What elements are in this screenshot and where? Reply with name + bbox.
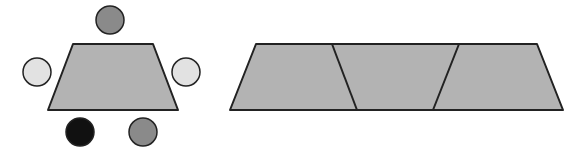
seat-right-circle bbox=[172, 58, 200, 86]
trapezoid-table bbox=[48, 44, 178, 110]
diagram-canvas bbox=[0, 0, 588, 152]
joined-trapezoids-outline bbox=[230, 44, 563, 110]
seat-bottom-left-circle bbox=[66, 118, 94, 146]
seat-bottom-right-circle bbox=[129, 118, 157, 146]
seat-top-circle bbox=[96, 6, 124, 34]
right-figure bbox=[230, 44, 563, 110]
left-figure bbox=[23, 6, 200, 146]
seat-left-circle bbox=[23, 58, 51, 86]
